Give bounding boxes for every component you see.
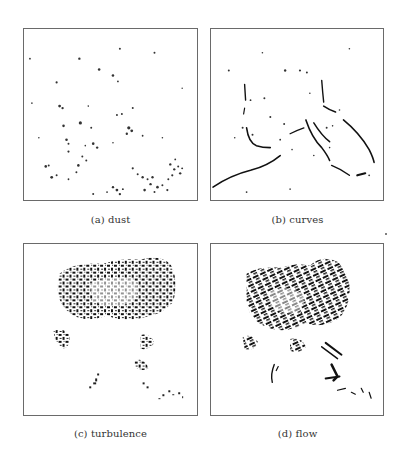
flow-image — [211, 244, 383, 415]
caption-dust: (a) dust — [23, 214, 198, 225]
curves-image — [211, 29, 383, 200]
turbulence-mass — [54, 258, 176, 371]
caption-curves: (b) curves — [210, 214, 385, 225]
caption-flow: (d) flow — [210, 428, 385, 439]
dust-image — [24, 29, 197, 200]
caption-turbulence: (c) turbulence — [23, 428, 198, 439]
turbulence-image — [24, 244, 197, 415]
panel-dust — [23, 28, 198, 201]
flow-mass — [243, 259, 350, 352]
panel-flow — [210, 243, 384, 416]
stray-mark — [385, 233, 387, 235]
panel-curves — [210, 28, 384, 201]
panel-turbulence — [23, 243, 198, 416]
